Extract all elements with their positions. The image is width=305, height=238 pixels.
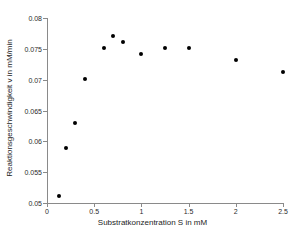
x-axis-line: [47, 203, 283, 204]
x-tick-label: 2.5: [278, 208, 288, 215]
y-tick: [43, 18, 47, 19]
y-tick-label: 0.075: [24, 45, 42, 52]
y-tick: [43, 111, 47, 112]
data-point: [163, 46, 167, 50]
x-tick: [189, 203, 190, 207]
data-point: [234, 58, 238, 62]
y-tick-label: 0.055: [24, 169, 42, 176]
data-point: [187, 46, 191, 50]
x-axis-label: Substratkonzentration S in mM: [0, 219, 305, 227]
y-tick-label: 0.05: [28, 200, 42, 207]
x-tick-label: 1.5: [184, 208, 194, 215]
y-axis-label: Reaktionsgeschwindigkeit v in mM/min: [6, 20, 14, 196]
plot-area: 0.050.0550.060.0650.070.0750.08 00.511.5…: [47, 18, 283, 203]
data-point: [139, 52, 143, 56]
data-point: [281, 70, 285, 74]
y-tick-label: 0.065: [24, 107, 42, 114]
x-tick-label: 0.5: [89, 208, 99, 215]
data-point: [73, 121, 77, 125]
x-tick: [47, 203, 48, 207]
data-point: [102, 46, 106, 50]
data-point: [83, 77, 87, 81]
y-axis-line: [47, 18, 48, 203]
x-tick-label: 1: [139, 208, 143, 215]
data-point: [64, 146, 68, 150]
data-point: [111, 34, 115, 38]
x-tick: [141, 203, 142, 207]
x-tick-label: 0: [45, 208, 49, 215]
x-tick: [283, 203, 284, 207]
y-tick: [43, 49, 47, 50]
data-point: [57, 194, 61, 198]
x-tick: [94, 203, 95, 207]
y-tick: [43, 141, 47, 142]
x-tick-label: 2: [234, 208, 238, 215]
scatter-plot-figure: 0.050.0550.060.0650.070.0750.08 00.511.5…: [0, 0, 305, 238]
y-tick-label: 0.08: [28, 15, 42, 22]
y-tick-label: 0.06: [28, 138, 42, 145]
y-tick-label: 0.07: [28, 76, 42, 83]
data-point: [121, 40, 125, 44]
y-tick: [43, 172, 47, 173]
y-tick: [43, 80, 47, 81]
x-tick: [236, 203, 237, 207]
